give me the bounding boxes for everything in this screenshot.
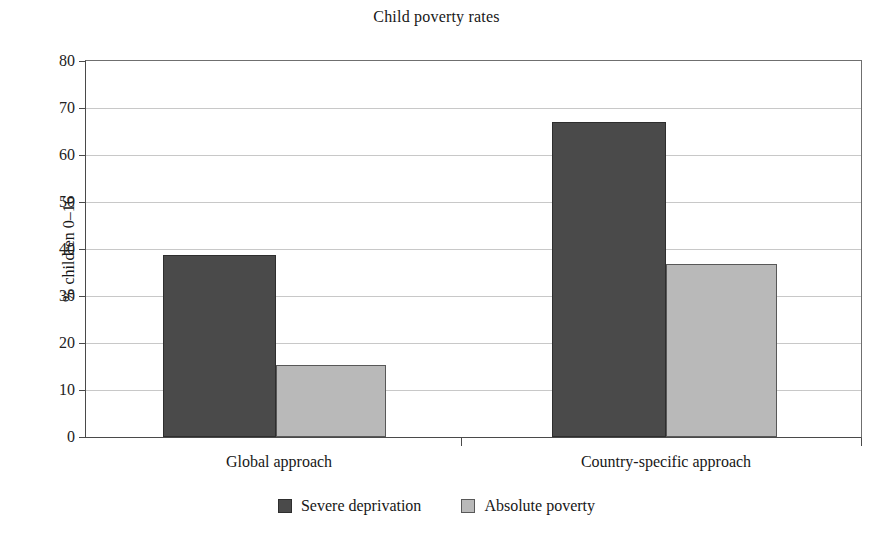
bar-severe-deprivation-1 xyxy=(552,122,666,437)
y-tick-40 xyxy=(79,249,86,250)
y-tick-label-20: 20 xyxy=(59,334,75,352)
y-tick-label-70: 70 xyxy=(59,99,75,117)
y-tick-60 xyxy=(79,155,86,156)
y-tick-30 xyxy=(79,296,86,297)
x-category-label-0: Global approach xyxy=(129,453,429,471)
chart-figure: Child poverty rates % children 0–16 0102… xyxy=(0,0,873,546)
bar-absolute-poverty-1 xyxy=(666,264,777,437)
legend-label-0: Severe deprivation xyxy=(301,497,421,515)
y-tick-80 xyxy=(79,61,86,62)
y-tick-label-50: 50 xyxy=(59,193,75,211)
gridline-y-70 xyxy=(86,108,861,109)
gridline-y-60 xyxy=(86,155,861,156)
y-tick-label-10: 10 xyxy=(59,381,75,399)
gridline-y-40 xyxy=(86,249,861,250)
x-tick-1 xyxy=(861,438,862,446)
bar-severe-deprivation-0 xyxy=(163,255,276,437)
y-tick-label-80: 80 xyxy=(59,52,75,70)
legend-item-absolute-poverty[interactable]: Absolute poverty xyxy=(461,497,595,515)
y-tick-label-40: 40 xyxy=(59,240,75,258)
legend-item-severe-deprivation[interactable]: Severe deprivation xyxy=(278,497,421,515)
chart-legend: Severe deprivationAbsolute poverty xyxy=(0,497,873,515)
y-tick-label-60: 60 xyxy=(59,146,75,164)
chart-title: Child poverty rates xyxy=(0,8,873,26)
y-tick-50 xyxy=(79,202,86,203)
legend-swatch-icon-1 xyxy=(461,499,475,513)
bar-absolute-poverty-0 xyxy=(276,365,386,437)
y-tick-10 xyxy=(79,390,86,391)
gridline-y-50 xyxy=(86,202,861,203)
y-tick-0 xyxy=(79,437,86,438)
x-category-label-1: Country-specific approach xyxy=(516,453,816,471)
y-tick-label-0: 0 xyxy=(67,428,75,446)
x-tick-0 xyxy=(461,438,462,446)
y-tick-20 xyxy=(79,343,86,344)
y-tick-label-30: 30 xyxy=(59,287,75,305)
legend-swatch-icon-0 xyxy=(278,499,292,513)
y-tick-70 xyxy=(79,108,86,109)
plot-area: % children 0–16 01020304050607080Global … xyxy=(85,60,862,438)
legend-label-1: Absolute poverty xyxy=(484,497,595,515)
